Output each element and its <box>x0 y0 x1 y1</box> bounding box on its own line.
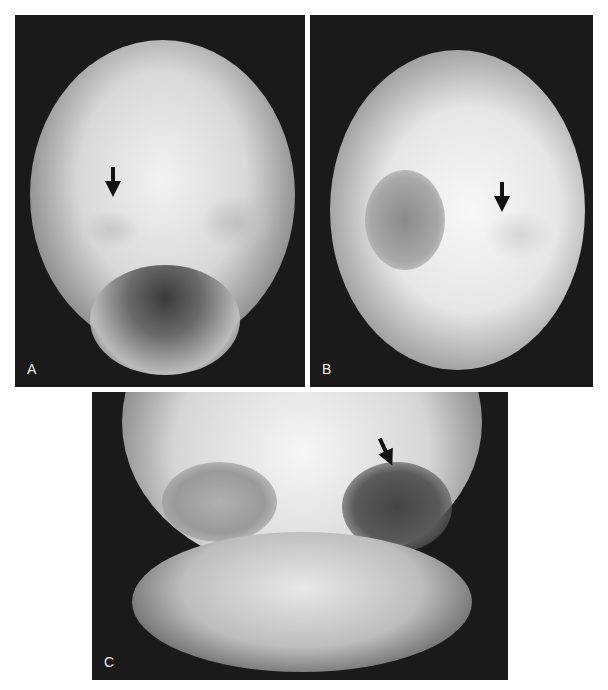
panel-label-c: C <box>104 654 114 670</box>
right-orbit <box>162 462 277 542</box>
maxillary-region <box>132 532 472 672</box>
panel-label-b: B <box>322 361 331 377</box>
arrow-icon <box>105 167 121 197</box>
radiograph-panel-a: A <box>15 15 305 387</box>
left-orbit <box>200 195 275 250</box>
panel-label-a: A <box>27 361 36 377</box>
right-orbit <box>80 210 140 250</box>
radiograph-panel-b: B <box>310 15 593 387</box>
arrow-icon <box>494 182 510 212</box>
maxilla-region <box>90 265 240 375</box>
radiograph-panel-c: C <box>92 392 508 680</box>
right-orbit <box>485 210 555 260</box>
expanded-orbit-lesion <box>365 170 445 270</box>
